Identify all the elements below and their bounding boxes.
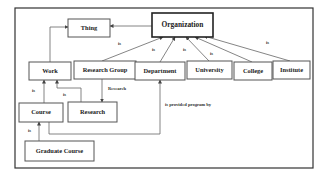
edge-label: Research (108, 86, 126, 91)
node-label: College (243, 67, 263, 74)
node-research-group: Research Group (74, 61, 136, 79)
edge-label: is (63, 92, 66, 97)
node-work: Work (29, 62, 71, 80)
node-organization: Organization (152, 13, 213, 37)
node-thing: Thing (68, 19, 110, 37)
edge-label: is (118, 41, 121, 46)
edge-college-to-organization (195, 37, 252, 62)
edge-university-to-organization (186, 37, 209, 61)
node-label: Work (42, 67, 58, 74)
node-course: Course (19, 103, 63, 122)
edge-label: is (28, 128, 31, 133)
node-label: Course (31, 108, 51, 115)
node-label: Thing (81, 24, 98, 31)
node-college: College (234, 62, 272, 80)
node-label: Research (80, 108, 106, 115)
node-label: Institute (280, 66, 303, 73)
node-label: Research Group (83, 66, 128, 73)
edge-label: is (183, 47, 186, 52)
node-research: Research (68, 102, 117, 122)
edge-label: is (152, 47, 155, 52)
edge-label: is (32, 88, 35, 93)
edge-department-to-organization (160, 37, 175, 62)
edge-institute-to-organization (204, 36, 290, 61)
node-department: Department (135, 62, 185, 80)
ontology-diagram: ThingOrganizationWorkResearch GroupDepar… (0, 0, 327, 177)
node-label: Graduate Course (36, 147, 84, 154)
edge-label: is (266, 40, 269, 45)
edge-label: is provided program by (165, 102, 212, 107)
node-label: Organization (162, 20, 204, 29)
node-institute: Institute (273, 61, 310, 79)
node-graduate-course: Graduate Course (25, 141, 94, 161)
node-university: University (187, 61, 232, 79)
node-label: Department (143, 67, 177, 74)
edge-work-to-thing (50, 27, 68, 62)
edge-research-to-work (57, 80, 81, 102)
edge-label: is (210, 51, 213, 56)
node-label: University (195, 66, 224, 73)
